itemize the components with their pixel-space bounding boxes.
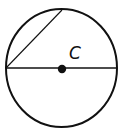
center-point [58,65,66,73]
circle-diagram: C [0,0,127,139]
chord-line [6,10,62,68]
center-label: C [69,43,81,63]
